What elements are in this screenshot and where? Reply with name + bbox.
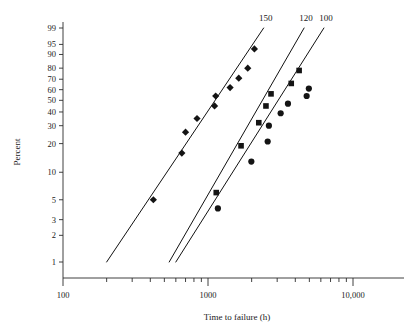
data-point-150 — [235, 75, 242, 82]
x-tick-label: 1000 — [200, 290, 217, 300]
series-label-150: 150 — [259, 13, 273, 23]
data-point-150 — [251, 45, 258, 52]
y-tick-label: 20 — [48, 139, 57, 149]
y-tick-label: 30 — [48, 121, 57, 131]
data-point-150 — [193, 115, 200, 122]
data-point-150 — [178, 149, 185, 156]
fit-line-100 — [176, 28, 324, 262]
data-points-group — [150, 45, 312, 211]
chart-canvas: 99959080706050403020105321 100100010,000… — [0, 0, 413, 333]
y-axis-ticks: 99959080706050403020105321 — [48, 23, 64, 267]
data-point-150 — [244, 65, 251, 72]
x-tick-label: 100 — [57, 290, 70, 300]
y-tick-label: 5 — [52, 195, 56, 205]
data-point-100 — [215, 205, 221, 211]
y-tick-label: 1 — [52, 257, 56, 267]
data-point-120 — [256, 120, 262, 126]
data-point-120 — [268, 91, 274, 97]
data-point-150 — [212, 92, 219, 99]
y-tick-label: 60 — [48, 85, 57, 95]
data-point-100 — [278, 110, 284, 116]
data-point-120 — [238, 143, 244, 149]
y-tick-label: 3 — [52, 215, 56, 225]
y-tick-label: 40 — [48, 107, 57, 117]
data-point-150 — [182, 129, 189, 136]
x-tick-label: 10,000 — [341, 290, 364, 300]
series-label-120: 120 — [299, 13, 313, 23]
y-tick-label: 95 — [48, 39, 57, 49]
data-point-150 — [226, 84, 233, 91]
data-point-100 — [248, 159, 254, 165]
data-point-120 — [288, 81, 294, 87]
data-point-100 — [265, 138, 271, 144]
y-tick-label: 50 — [48, 95, 57, 105]
y-tick-label: 10 — [48, 167, 57, 177]
series-label-100: 100 — [319, 13, 333, 23]
y-tick-label: 2 — [52, 230, 56, 240]
y-tick-label: 70 — [48, 74, 57, 84]
y-tick-label: 90 — [48, 49, 57, 59]
y-axis-title: Percent — [12, 138, 22, 165]
data-point-150 — [150, 196, 157, 203]
data-point-120 — [213, 190, 219, 196]
weibull-probability-plot: 99959080706050403020105321 100100010,000… — [0, 0, 413, 333]
data-point-150 — [211, 102, 218, 109]
series-labels-group: 150120100 — [259, 13, 333, 23]
data-point-100 — [304, 93, 310, 99]
y-tick-label: 99 — [48, 23, 57, 33]
data-point-100 — [306, 86, 312, 92]
fit-lines-group — [107, 28, 324, 262]
data-point-120 — [263, 103, 269, 109]
data-point-120 — [296, 68, 302, 74]
data-point-100 — [285, 101, 291, 107]
data-point-100 — [266, 123, 272, 129]
fit-line-120 — [169, 28, 304, 262]
x-axis-ticks: 100100010,000 — [57, 278, 365, 300]
x-axis-title: Time to failure (h) — [204, 312, 270, 322]
y-tick-label: 80 — [48, 63, 57, 73]
